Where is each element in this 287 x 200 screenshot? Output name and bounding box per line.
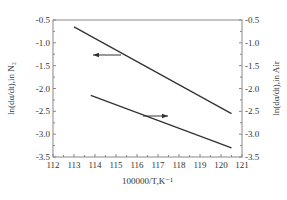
y-right-tick-label: -3.0 [245,129,260,139]
x-tick-label: 114 [88,160,102,170]
x-tick-label: 120 [214,160,228,170]
y-right-tick-label: -0.5 [245,15,260,25]
y-right-tick-label: -1.5 [245,61,260,71]
y-left-tick-label: -3.5 [36,152,51,162]
arrow-left-icon-head [93,53,99,57]
y-left-axis-title: ln(dα/dt),in N₂ [6,62,16,115]
arrow-right-icon-head [162,114,168,118]
y-left-tick-label: -2.5 [36,106,51,116]
plot-frame [53,20,242,157]
series-line-air [91,95,232,148]
x-tick-label: 116 [130,160,144,170]
arrhenius-chart: 112113114115116117118119120121-0.5-0.5-1… [0,0,287,200]
x-axis-title: 100000/T,K⁻¹ [122,176,173,186]
y-right-axis-title: ln(dα/dt),in Air [271,61,281,116]
y-left-tick-label: -0.5 [36,15,51,25]
chart-container: 112113114115116117118119120121-0.5-0.5-1… [0,0,287,200]
y-left-tick-label: -2.0 [36,84,51,94]
x-tick-label: 117 [151,160,165,170]
series-line-n2 [74,27,232,114]
x-tick-label: 113 [67,160,81,170]
x-tick-label: 115 [109,160,123,170]
y-left-tick-label: -3.0 [36,129,51,139]
x-tick-label: 119 [193,160,207,170]
x-tick-label: 118 [172,160,186,170]
y-right-tick-label: -2.5 [245,106,260,116]
y-right-tick-label: -3.5 [245,152,260,162]
y-left-tick-label: -1.5 [36,61,51,71]
y-right-tick-label: -1.0 [245,38,260,48]
y-right-tick-label: -2.0 [245,84,260,94]
y-left-tick-label: -1.0 [36,38,51,48]
